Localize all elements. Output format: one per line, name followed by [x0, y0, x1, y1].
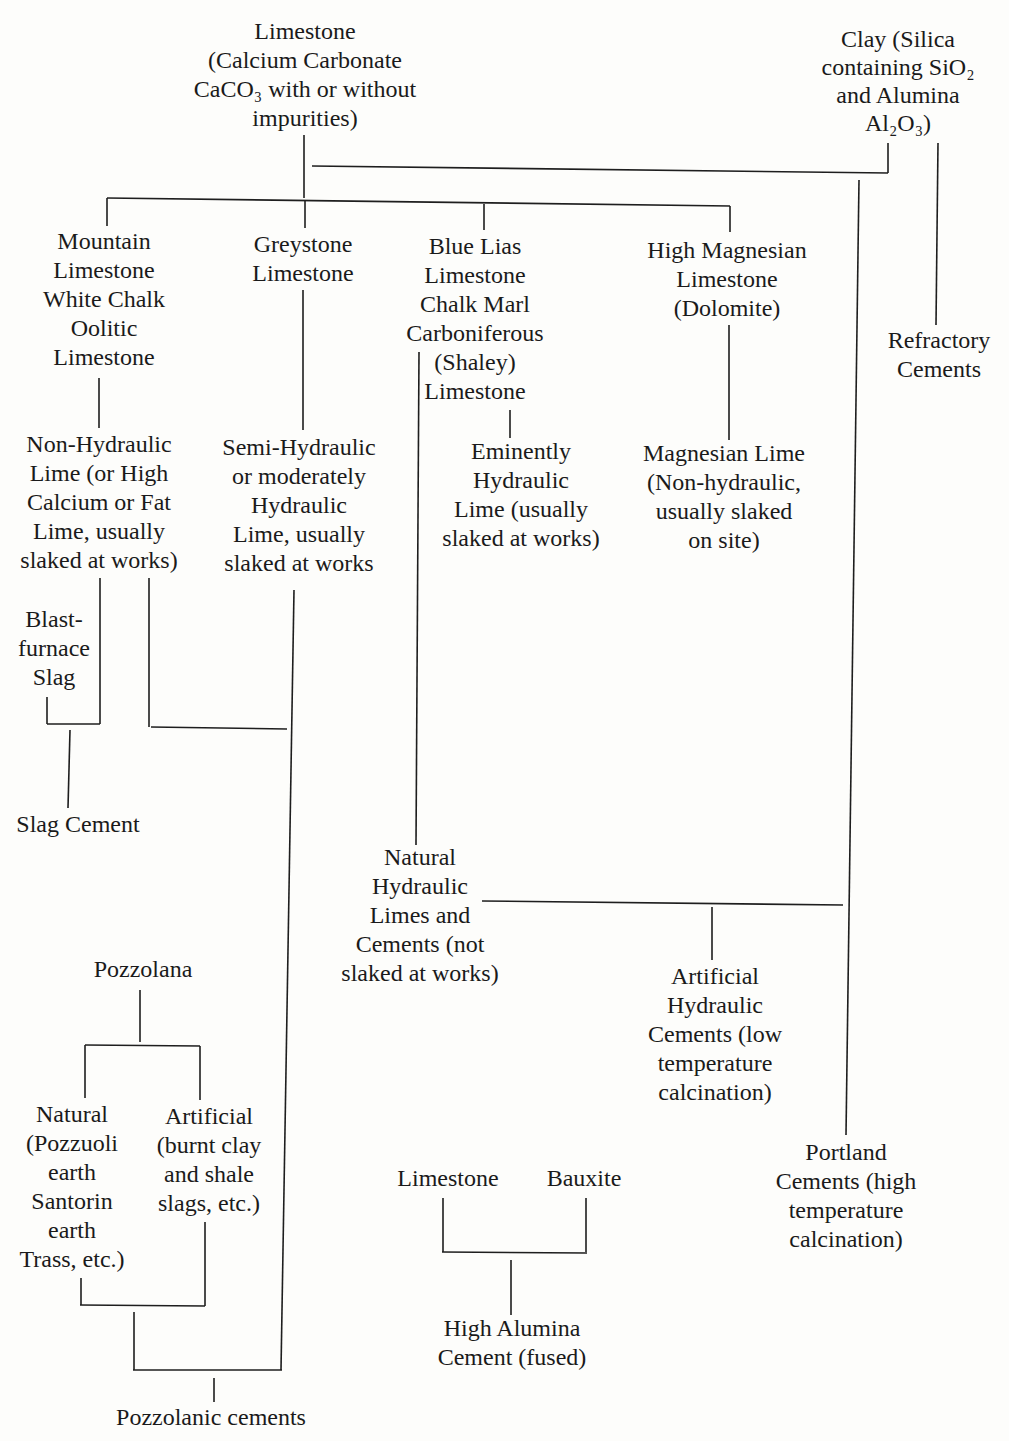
node-line: Bauxite	[547, 1164, 622, 1193]
node-line: Oolitic	[43, 314, 165, 343]
mountain-limestone-node: Mountain Limestone White Chalk Oolitic L…	[43, 227, 165, 372]
blue-lias-node: Blue Lias Limestone Chalk Marl Carbonife…	[406, 232, 543, 406]
node-line: Hydraulic	[442, 466, 599, 495]
node-line: Limestone	[43, 343, 165, 372]
node-line: (burnt clay	[157, 1131, 262, 1160]
node-line: Limestone	[43, 256, 165, 285]
node-line: Limestone	[406, 377, 543, 406]
bauxite-node: Bauxite	[547, 1164, 622, 1193]
node-line: Cement (fused)	[438, 1343, 587, 1372]
node-line: Lime (or High	[20, 459, 177, 488]
node-line: Eminently	[442, 437, 599, 466]
node-line: containing SiO₂	[821, 53, 974, 81]
node-line: furnace	[18, 634, 90, 663]
node-line: slaked at works)	[341, 959, 498, 988]
semi-hydraulic-lime-node: Semi-Hydraulic or moderately Hydraulic L…	[222, 433, 375, 578]
node-line: temperature	[648, 1049, 782, 1078]
node-line: High Magnesian	[647, 236, 806, 265]
node-line: Lime, usually	[222, 520, 375, 549]
limestone-source-node: Limestone (Calcium Carbonate CaCO₃ with …	[194, 17, 416, 133]
node-line: Natural	[341, 843, 498, 872]
node-line: Hydraulic	[222, 491, 375, 520]
limestone-alumina-source-node: Limestone	[397, 1164, 498, 1193]
node-line: Refractory	[888, 326, 991, 355]
node-line: slaked at works	[222, 549, 375, 578]
node-line: slaked at works)	[442, 524, 599, 553]
node-line: slags, etc.)	[157, 1189, 262, 1218]
node-line: Blue Lias	[406, 232, 543, 261]
node-line: Portland	[776, 1138, 917, 1167]
artificial-hydraulic-cements-node: Artificial Hydraulic Cements (low temper…	[648, 962, 782, 1107]
node-line: earth	[19, 1216, 124, 1245]
node-line: or moderately	[222, 462, 375, 491]
high-magnesian-limestone-node: High Magnesian Limestone (Dolomite)	[647, 236, 806, 323]
eminently-hydraulic-lime-node: Eminently Hydraulic Lime (usually slaked…	[442, 437, 599, 553]
node-line: (Dolomite)	[647, 294, 806, 323]
node-line: Trass, etc.)	[19, 1245, 124, 1274]
node-line: Magnesian Lime	[643, 439, 805, 468]
node-line: and shale	[157, 1160, 262, 1189]
node-line: Limestone	[647, 265, 806, 294]
node-line: slaked at works)	[20, 546, 177, 575]
node-line: calcination)	[776, 1225, 917, 1254]
node-line: earth	[19, 1158, 124, 1187]
node-line: Semi-Hydraulic	[222, 433, 375, 462]
natural-hydraulic-limes-node: Natural Hydraulic Limes and Cements (not…	[341, 843, 498, 988]
node-line: (Shaley)	[406, 348, 543, 377]
node-line: Calcium or Fat	[20, 488, 177, 517]
node-line: Mountain	[43, 227, 165, 256]
slag-cement-node: Slag Cement	[16, 810, 139, 839]
node-line: Blast-	[18, 605, 90, 634]
node-line: High Alumina	[438, 1314, 587, 1343]
node-line: Hydraulic	[648, 991, 782, 1020]
node-line: Santorin	[19, 1187, 124, 1216]
node-line: Slag Cement	[16, 810, 139, 839]
high-alumina-cement-node: High Alumina Cement (fused)	[438, 1314, 587, 1372]
node-line: Limes and	[341, 901, 498, 930]
node-line: on site)	[643, 526, 805, 555]
node-line: (Non-hydraulic,	[643, 468, 805, 497]
pozzolana-node: Pozzolana	[94, 955, 193, 984]
node-line: Cements (high	[776, 1167, 917, 1196]
greystone-limestone-node: Greystone Limestone	[252, 230, 353, 288]
node-line: Lime (usually	[442, 495, 599, 524]
node-line: (Calcium Carbonate	[194, 46, 416, 75]
node-line: Greystone	[252, 230, 353, 259]
natural-pozzolana-node: Natural (Pozzuoli earth Santorin earth T…	[19, 1100, 124, 1274]
non-hydraulic-lime-node: Non-Hydraulic Lime (or High Calcium or F…	[20, 430, 177, 575]
node-line: Cements (not	[341, 930, 498, 959]
node-line: Limestone	[397, 1164, 498, 1193]
node-line: White Chalk	[43, 285, 165, 314]
pozzolanic-cements-node: Pozzolanic cements	[116, 1403, 306, 1432]
node-line: Cements (low	[648, 1020, 782, 1049]
node-line: Limestone	[194, 17, 416, 46]
node-line: Hydraulic	[341, 872, 498, 901]
artificial-pozzolana-node: Artificial (burnt clay and shale slags, …	[157, 1102, 262, 1218]
node-line: Pozzolanic cements	[116, 1403, 306, 1432]
node-line: and Alumina	[821, 81, 974, 109]
node-line: Slag	[18, 663, 90, 692]
node-line: Artificial	[648, 962, 782, 991]
node-line: impurities)	[194, 104, 416, 133]
node-line: Cements	[888, 355, 991, 384]
node-line: temperature	[776, 1196, 917, 1225]
node-line: Limestone	[252, 259, 353, 288]
blast-furnace-slag-node: Blast- furnace Slag	[18, 605, 90, 692]
refractory-cements-node: Refractory Cements	[888, 326, 991, 384]
magnesian-lime-node: Magnesian Lime (Non-hydraulic, usually s…	[643, 439, 805, 555]
node-line: Non-Hydraulic	[20, 430, 177, 459]
node-line: Natural	[19, 1100, 124, 1129]
portland-cements-node: Portland Cements (high temperature calci…	[776, 1138, 917, 1254]
node-line: (Pozzuoli	[19, 1129, 124, 1158]
node-line: Clay (Silica	[821, 25, 974, 53]
node-line: Limestone	[406, 261, 543, 290]
node-line: Pozzolana	[94, 955, 193, 984]
node-line: Al₂O₃)	[821, 109, 974, 137]
node-line: calcination)	[648, 1078, 782, 1107]
node-line: Lime, usually	[20, 517, 177, 546]
clay-source-node: Clay (Silica containing SiO₂ and Alumina…	[821, 25, 974, 137]
node-line: Artificial	[157, 1102, 262, 1131]
node-line: Chalk Marl	[406, 290, 543, 319]
node-line: usually slaked	[643, 497, 805, 526]
node-line: CaCO₃ with or without	[194, 75, 416, 104]
